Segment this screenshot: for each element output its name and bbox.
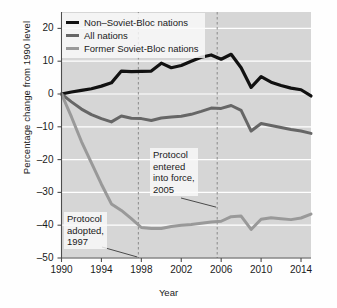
x-tick-label: 2006 — [201, 264, 241, 275]
legend-swatch-icon — [66, 34, 79, 37]
x-tick-label: 1998 — [121, 264, 161, 275]
legend-swatch-icon — [66, 21, 79, 24]
annotation-line: Protocol — [153, 149, 195, 161]
y-tick-label: 20 — [20, 22, 54, 33]
y-tick-label: –40 — [20, 219, 54, 230]
chart-legend: Non–Soviet-Bloc nations All nations Form… — [62, 13, 205, 58]
annotation-line: 1997 — [67, 236, 104, 248]
legend-item-label: Non–Soviet-Bloc nations — [84, 17, 188, 28]
legend-item-label: Former Soviet-Bloc nations — [84, 43, 199, 54]
x-tick-label: 1990 — [42, 264, 82, 275]
annotation-line: into force, — [153, 172, 195, 184]
annotation-line: adopted, — [67, 225, 104, 237]
x-tick-label: 2014 — [281, 264, 321, 275]
y-tick-label: 10 — [20, 55, 54, 66]
annotation-line: entered — [153, 161, 195, 173]
legend-item-all-nations: All nations — [66, 29, 199, 42]
annotation-protocol-adopted: Protocol adopted, 1997 — [64, 212, 107, 249]
x-tick-label: 2010 — [241, 264, 281, 275]
legend-item-label: All nations — [84, 30, 128, 41]
annotation-line: 2005 — [153, 184, 195, 196]
x-tick-label: 1994 — [81, 264, 121, 275]
y-tick-label: –50 — [20, 252, 54, 263]
y-tick-label: 0 — [20, 88, 54, 99]
legend-swatch-icon — [66, 47, 79, 50]
y-tick-label: –20 — [20, 154, 54, 165]
annotation-protocol-entered-into-force: Protocol entered into force, 2005 — [150, 148, 198, 196]
legend-item-non-soviet-bloc: Non–Soviet-Bloc nations — [66, 16, 199, 29]
legend-item-former-soviet-bloc: Former Soviet-Bloc nations — [66, 42, 199, 55]
annotation-line: Protocol — [67, 213, 104, 225]
x-tick-label: 2002 — [161, 264, 201, 275]
chart-figure: Percentage change from 1990 level Year 2… — [0, 0, 337, 308]
y-tick-label: –10 — [20, 121, 54, 132]
y-tick-label: –30 — [20, 186, 54, 197]
